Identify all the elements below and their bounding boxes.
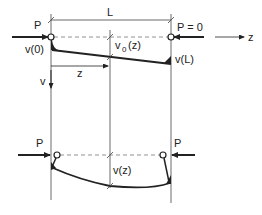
svg-text:v: v: [115, 39, 121, 51]
deflected-beam-top: [52, 50, 171, 64]
bottom-panel: P P v(z): [18, 108, 195, 203]
deflection-mid-label-bottom: v(z): [113, 164, 131, 176]
z-axis-label: z: [248, 31, 254, 43]
svg-text:0: 0: [122, 45, 127, 54]
hinge-left-bottom: [54, 152, 60, 158]
hinge-left-top: [48, 34, 54, 40]
deflection-right-label: v(L): [175, 53, 194, 65]
beam-left-bracket: [51, 40, 58, 50]
load-label-right: P = 0: [177, 21, 203, 33]
deflection-mid-label: v 0 (z): [115, 39, 141, 54]
load-label-right-bottom: P: [174, 137, 181, 149]
top-panel: L P P = 0 z v(0) v 0 (z) v(L) z: [12, 6, 254, 108]
length-label: L: [107, 6, 113, 18]
hinge-right-top: [168, 34, 174, 40]
load-label-left: P: [34, 19, 41, 31]
link-right: [164, 158, 169, 182]
svg-text:(z): (z): [128, 39, 141, 51]
deflection-left-label: v(0): [25, 43, 44, 55]
column-deflection-diagram: L P P = 0 z v(0) v 0 (z) v(L) z: [0, 0, 262, 215]
v-axis-label: v: [40, 75, 46, 87]
z-position-label: z: [77, 67, 83, 79]
hinge-right-bottom: [160, 152, 166, 158]
load-label-left-bottom: P: [36, 137, 43, 149]
